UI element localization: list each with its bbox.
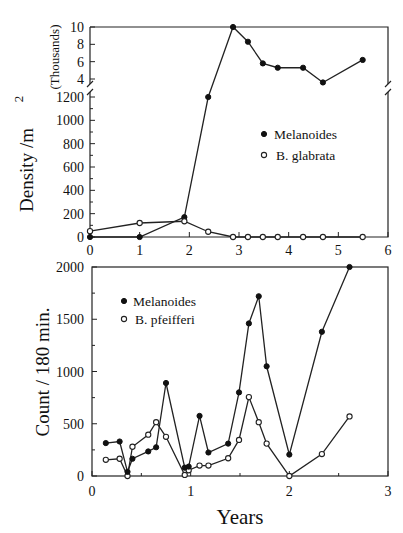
x-tick-label: 1 xyxy=(187,484,194,499)
data-point xyxy=(137,220,142,225)
data-point xyxy=(206,463,211,468)
y-tick-label: 1200 xyxy=(56,90,84,105)
x-axis-title-years: Years xyxy=(217,505,264,529)
y-tick-label: 400 xyxy=(63,183,84,198)
y-tick-label: 1000 xyxy=(56,113,84,128)
data-point xyxy=(137,234,142,239)
top-panel: 020040060080010001200468100123456 Melano… xyxy=(47,20,392,258)
series-line-b-pfeifferi xyxy=(106,397,350,476)
data-point xyxy=(130,456,135,461)
data-point xyxy=(230,234,235,239)
legend-marker-melanoides xyxy=(121,298,126,303)
data-point xyxy=(256,294,261,299)
data-point xyxy=(186,464,191,469)
y-tick-label: 0 xyxy=(77,230,84,245)
x-tick-label: 3 xyxy=(236,243,243,258)
data-point xyxy=(236,437,241,442)
x-tick-label: 0 xyxy=(89,484,96,499)
x-tick-label: 6 xyxy=(385,243,392,258)
data-point xyxy=(347,414,352,419)
legend-marker-b-glabrata xyxy=(261,152,266,157)
y-tick-label-thousands: 4 xyxy=(77,72,84,87)
data-point xyxy=(182,219,187,224)
data-point xyxy=(130,444,135,449)
data-point xyxy=(87,234,92,239)
data-point xyxy=(246,395,251,400)
y-tick-label: 500 xyxy=(63,417,84,432)
data-point xyxy=(360,234,365,239)
y-tick-label-thousands: 6 xyxy=(77,55,84,70)
y-tick-label-thousands: 10 xyxy=(70,20,84,35)
chart-canvas: 020040060080010001200468100123456 Melano… xyxy=(0,0,403,533)
data-point xyxy=(146,432,151,437)
data-point xyxy=(125,469,130,474)
data-point xyxy=(319,329,324,334)
data-point xyxy=(226,441,231,446)
data-point xyxy=(87,229,92,234)
data-point xyxy=(245,234,250,239)
y-tick-label-thousands: 8 xyxy=(77,37,84,52)
data-point xyxy=(347,264,352,269)
y-tick-label: 2000 xyxy=(56,260,84,275)
legend-label-b-pfeifferi: B. pfeifferi xyxy=(135,312,195,327)
data-point xyxy=(206,229,211,234)
y-axis-title-count: Count / 180 min. xyxy=(32,308,53,437)
data-point xyxy=(260,61,265,66)
data-point xyxy=(154,445,159,450)
data-point xyxy=(103,440,108,445)
x-tick-label: 2 xyxy=(286,484,293,499)
data-point xyxy=(287,452,292,457)
data-point xyxy=(230,24,235,29)
data-point xyxy=(275,234,280,239)
x-tick-label: 0 xyxy=(87,243,94,258)
y-axis-thousands-label: (Thousands) xyxy=(47,25,62,90)
legend-marker-melanoides xyxy=(261,131,266,136)
y-tick-label: 200 xyxy=(63,207,84,222)
data-point xyxy=(246,321,251,326)
y-axis-title-superscript: 2 xyxy=(11,96,26,103)
data-point xyxy=(182,472,187,477)
legend-marker-b-pfeifferi xyxy=(121,316,126,321)
data-point xyxy=(287,473,292,478)
data-point xyxy=(319,451,324,456)
bottom-panel-legend: Melanoides B. pfeifferi xyxy=(121,294,196,327)
data-point xyxy=(256,420,261,425)
data-point xyxy=(360,57,365,62)
data-point xyxy=(236,390,241,395)
data-point xyxy=(197,413,202,418)
y-tick-label: 1000 xyxy=(56,365,84,380)
y-axis-title-density: Density /m xyxy=(16,128,37,212)
data-point xyxy=(264,441,269,446)
x-tick-label: 2 xyxy=(186,243,193,258)
y-tick-label: 600 xyxy=(63,160,84,175)
data-point xyxy=(320,80,325,85)
bottom-panel-axes: 05001000150020000123 xyxy=(56,260,392,499)
y-tick-label: 0 xyxy=(77,469,84,484)
figure: 020040060080010001200468100123456 Melano… xyxy=(0,0,403,533)
data-point xyxy=(260,234,265,239)
x-tick-label: 5 xyxy=(335,243,342,258)
x-tick-label: 3 xyxy=(385,484,392,499)
data-point xyxy=(300,234,305,239)
x-tick-label: 1 xyxy=(136,243,143,258)
data-point xyxy=(103,457,108,462)
legend-label-melanoides: Melanoides xyxy=(133,294,196,309)
bottom-panel: 05001000150020000123 Melanoides B. pfeif… xyxy=(32,260,392,529)
data-point xyxy=(117,439,122,444)
data-point xyxy=(163,380,168,385)
data-point xyxy=(275,65,280,70)
data-point xyxy=(320,234,325,239)
data-point xyxy=(146,449,151,454)
legend-label-b-glabrata: B. glabrata xyxy=(276,148,335,163)
data-point xyxy=(117,456,122,461)
data-point xyxy=(206,94,211,99)
data-point xyxy=(206,450,211,455)
x-tick-label: 4 xyxy=(285,243,292,258)
data-point xyxy=(264,364,269,369)
y-tick-label: 1500 xyxy=(56,312,84,327)
legend-label-melanoides: Melanoides xyxy=(274,127,337,142)
data-point xyxy=(226,456,231,461)
data-point xyxy=(163,434,168,439)
shared-y-axis-title: Density /m 2 xyxy=(11,96,37,212)
y-tick-label: 800 xyxy=(63,137,84,152)
